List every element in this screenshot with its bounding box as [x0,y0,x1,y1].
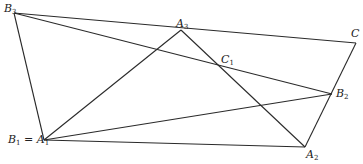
label-c1: C1 [221,54,234,67]
label-a3: A3 [176,18,188,31]
label-a2: A2 [306,149,318,162]
label-b3: B3 [4,3,17,16]
label-b1-equals-a1: B1 = A1 [8,134,49,147]
segment-a3-a2 [181,30,305,147]
segment-b3-b2 [14,13,332,94]
label-b2: B2 [336,88,349,101]
segment-a1-a3 [44,30,181,140]
segment-b3-a1 [14,13,44,140]
label-c: C [351,28,359,39]
segment-a1-a2 [44,140,305,147]
segment-a1-b2 [44,94,332,140]
segments [14,13,356,147]
